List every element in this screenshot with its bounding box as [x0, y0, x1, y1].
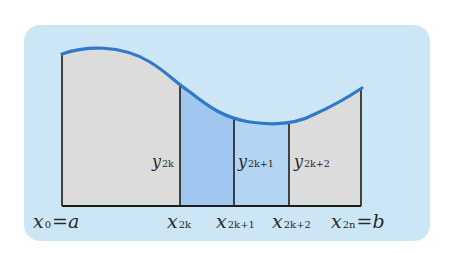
x-label-0: x0=a [33, 210, 79, 232]
simpson-diagram: x0=ax2kx2k+1x2k+2x2n=b y2ky2k+1y2k+2 [0, 0, 453, 253]
x-label-4: x2n=b [331, 210, 385, 232]
